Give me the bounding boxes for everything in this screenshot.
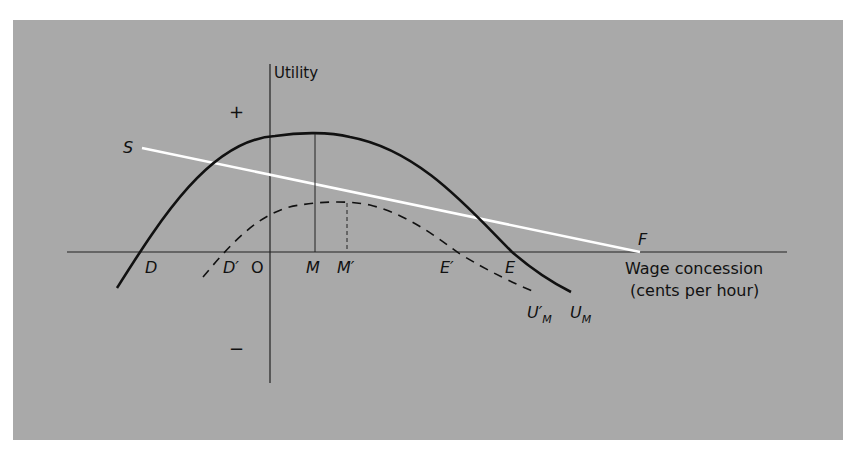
x-axis-label-line2: (cents per hour)	[630, 281, 759, 300]
label-um: UM	[570, 303, 592, 326]
x-axis-label-line1: Wage concession	[625, 259, 763, 278]
minus-sign: −	[229, 338, 244, 359]
label-d-prime: D′	[223, 258, 239, 277]
label-um-prime: U′M	[527, 303, 552, 326]
label-s: S	[123, 138, 133, 157]
label-m: M	[306, 258, 320, 277]
label-m-prime: M′	[337, 258, 355, 277]
origin-label: O	[251, 258, 264, 277]
um-prime-curve	[203, 202, 535, 292]
plus-sign: +	[229, 101, 244, 122]
utility-diagram: Utility + − S F D D′ O M M′ E′ E Wage co…	[0, 0, 860, 463]
label-e: E	[505, 258, 516, 277]
sf-line	[142, 148, 640, 252]
label-e-prime: E′	[440, 258, 454, 277]
label-f: F	[638, 230, 648, 249]
y-axis-label: Utility	[274, 64, 318, 82]
label-d: D	[145, 258, 157, 277]
